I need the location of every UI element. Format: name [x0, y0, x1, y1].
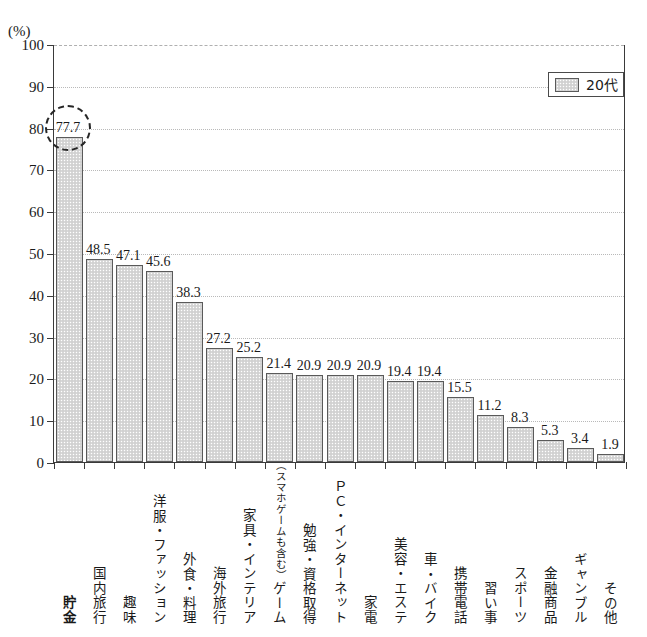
bar — [597, 454, 624, 462]
x-axis-category-label: 習い事 — [482, 474, 497, 624]
x-axis-category-label: 車・バイク — [422, 474, 437, 624]
gridline — [54, 45, 624, 46]
category-label-text: 美容・エステ — [392, 537, 407, 624]
bar — [266, 373, 293, 462]
x-axis-tick — [144, 462, 145, 469]
y-axis-tick-label: 0 — [4, 456, 44, 471]
y-axis-tick-label: 50 — [4, 247, 44, 262]
x-axis-tick — [566, 462, 567, 469]
x-axis-tick — [385, 462, 386, 469]
bar-value-label: 47.1 — [116, 249, 141, 263]
x-axis-tick — [445, 462, 446, 469]
bar-value-label: 5.3 — [541, 424, 559, 438]
x-axis-category-label: ギャンブル — [572, 474, 587, 624]
x-axis-tick — [536, 462, 537, 469]
bar-value-label: 77.7 — [56, 121, 81, 135]
bar — [176, 302, 203, 462]
x-axis-category-label: その他 — [602, 474, 617, 624]
x-axis-tick — [506, 462, 507, 469]
bar — [146, 271, 173, 462]
x-axis-category-label: 国内旅行 — [91, 474, 106, 624]
x-axis-tick — [415, 462, 416, 469]
bar — [86, 259, 113, 462]
category-label-text: 外食・料理 — [181, 552, 196, 625]
bar-value-label: 21.4 — [267, 357, 292, 371]
x-axis-tick — [84, 462, 85, 469]
gridline — [54, 87, 624, 88]
y-axis-tick-label: 60 — [4, 205, 44, 220]
bar — [507, 427, 534, 462]
x-axis-tick — [205, 462, 206, 469]
bar-value-label: 8.3 — [511, 411, 529, 425]
bar — [387, 381, 414, 462]
x-axis-category-label: スポーツ — [512, 474, 527, 624]
category-label-text: 趣味 — [121, 595, 136, 624]
bar-chart: (%) 20代 0102030405060708090100 貯金国内旅行趣味洋… — [0, 0, 647, 637]
x-axis-category-label: 海外旅行 — [211, 474, 226, 624]
category-label-text: 海外旅行 — [211, 566, 226, 624]
category-label-text: 国内旅行 — [91, 566, 106, 624]
x-axis-category-label: ゲーム（スマホゲームも含む） — [271, 474, 286, 624]
bar-value-label: 19.4 — [387, 365, 412, 379]
x-axis-category-label: 趣味 — [121, 474, 136, 624]
bar — [236, 357, 263, 462]
category-label-text: 家具・インテリア — [241, 508, 256, 624]
y-axis-tick — [47, 170, 54, 171]
x-axis-tick — [114, 462, 115, 469]
bar-value-label: 20.9 — [297, 359, 322, 373]
x-axis-category-label: 外食・料理 — [181, 474, 196, 624]
category-label-text: 洋服・ファッション — [151, 494, 166, 625]
bar — [296, 375, 323, 462]
category-label-text: 車・バイク — [422, 552, 437, 625]
x-axis-category-label: 家電 — [362, 474, 377, 624]
category-label-text: 貯金 — [61, 595, 76, 624]
bar-value-label: 11.2 — [478, 399, 502, 413]
y-axis-tick-label: 80 — [4, 121, 44, 136]
bar — [116, 265, 143, 462]
x-axis-category-label: ＰＣ・インターネット — [332, 474, 347, 624]
x-axis-category-label: 貯金 — [61, 474, 76, 624]
bar — [417, 381, 444, 462]
gridline — [54, 212, 624, 213]
y-axis-tick-label: 100 — [4, 38, 44, 53]
y-axis-tick — [47, 45, 54, 46]
x-axis-tick — [265, 462, 266, 469]
x-axis-tick — [325, 462, 326, 469]
bar-value-label: 1.9 — [601, 438, 619, 452]
x-axis-category-label: 洋服・ファッション — [151, 474, 166, 624]
category-label-text: ＰＣ・インターネット — [332, 479, 347, 624]
bar-value-label: 15.5 — [447, 381, 472, 395]
category-label-text: 勉強・資格取得 — [301, 523, 316, 625]
x-axis-tick — [596, 462, 597, 469]
y-axis-tick-label: 30 — [4, 330, 44, 345]
bar-value-label: 38.3 — [176, 286, 201, 300]
category-label-text: その他 — [602, 581, 617, 625]
y-axis-tick — [47, 212, 54, 213]
y-axis-tick-label: 90 — [4, 79, 44, 94]
bar — [357, 375, 384, 462]
category-label-text: ギャンブル — [572, 552, 587, 625]
x-axis-category-label: 携帯電話 — [452, 474, 467, 624]
category-label-subtext: （スマホゲームも含む） — [274, 460, 286, 581]
x-axis-tick — [295, 462, 296, 469]
bar-value-label: 19.4 — [417, 365, 442, 379]
bar-value-label: 3.4 — [571, 432, 589, 446]
x-axis-tick — [626, 462, 627, 469]
y-axis-tick-label: 10 — [4, 414, 44, 429]
category-label-text: スポーツ — [512, 566, 527, 624]
bar — [537, 440, 564, 462]
bar — [447, 397, 474, 462]
y-axis-tick — [47, 254, 54, 255]
x-axis-category-label: 美容・エステ — [392, 474, 407, 624]
y-axis-tick — [47, 421, 54, 422]
y-axis-tick — [47, 463, 54, 464]
y-axis-tick — [47, 379, 54, 380]
gridline — [54, 129, 624, 130]
category-label-text: 家電 — [362, 595, 377, 624]
bar — [327, 375, 354, 462]
legend-label-20s: 20代 — [586, 78, 618, 92]
bar — [477, 415, 504, 462]
bar-value-label: 20.9 — [357, 359, 382, 373]
category-label-text: 習い事 — [482, 581, 497, 625]
x-axis-tick — [174, 462, 175, 469]
